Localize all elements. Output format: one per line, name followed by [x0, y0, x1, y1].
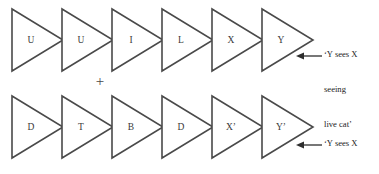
triangle-top-3[interactable]: I — [112, 9, 163, 71]
triangle-top-1[interactable]: U — [12, 9, 63, 71]
left-arrow-icon-bottom — [296, 142, 322, 149]
bottom-row: D T B D X’ Y’ — [12, 96, 313, 158]
triangle-bottom-2[interactable]: T — [62, 96, 113, 158]
triangle-label: U — [28, 35, 35, 45]
figure-svg: U U I L X Y — [0, 0, 379, 174]
triangle-bottom-5[interactable]: X’ — [212, 96, 263, 158]
triangle-top-2[interactable]: U — [62, 9, 113, 71]
top-row: U U I L X Y — [12, 9, 313, 71]
triangle-bottom-4[interactable]: D — [162, 96, 213, 158]
figure-canvas: U U I L X Y — [0, 0, 379, 174]
triangle-label: L — [178, 35, 184, 45]
annotation-line: ‘Y sees X — [324, 138, 358, 150]
triangle-top-5[interactable]: X — [212, 9, 263, 71]
triangle-label: U — [78, 35, 85, 45]
triangle-label: Y’ — [276, 122, 286, 132]
triangle-top-4[interactable]: L — [162, 9, 213, 71]
annotation-line: seeing — [324, 173, 358, 174]
plus-operator: + — [96, 73, 104, 89]
triangle-label: Y — [278, 35, 285, 45]
triangle-bottom-3[interactable]: B — [112, 96, 163, 158]
triangle-label: D — [28, 122, 35, 132]
triangle-label: X — [228, 35, 235, 45]
triangle-label: B — [128, 122, 134, 132]
triangle-label: X’ — [226, 122, 236, 132]
annotation-bottom: ‘Y sees X seeing dead cat’ — [324, 115, 358, 174]
triangle-bottom-1[interactable]: D — [12, 96, 63, 158]
annotation-line: seeing — [324, 84, 358, 96]
triangle-bottom-6[interactable]: Y’ — [262, 96, 313, 158]
triangle-label: T — [78, 122, 84, 132]
left-arrow-icon-top — [296, 53, 322, 60]
triangle-label: D — [178, 122, 185, 132]
annotation-line: ‘Y sees X — [324, 49, 358, 61]
triangle-label: I — [129, 35, 132, 45]
triangle-top-6[interactable]: Y — [262, 9, 313, 71]
